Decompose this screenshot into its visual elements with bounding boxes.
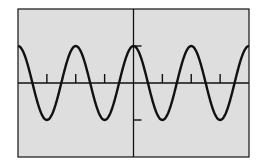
graph-screen [0,0,265,165]
